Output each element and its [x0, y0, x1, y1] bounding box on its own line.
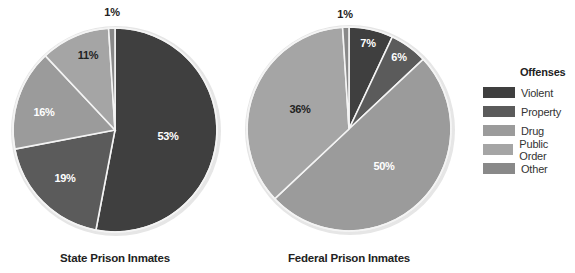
legend: Offenses Violent Property Drug Public Or… — [483, 66, 575, 178]
legend-swatch-property — [483, 106, 515, 117]
federal-violent-label: 7% — [360, 37, 375, 49]
legend-label-drug: Drug — [521, 125, 544, 137]
federal-public-order-label: 36% — [289, 103, 310, 115]
federal-drug-label: 50% — [373, 160, 394, 172]
legend-swatch-public-order — [483, 144, 513, 155]
legend-item-public-order: Public Order — [483, 140, 575, 159]
legend-swatch-drug — [483, 125, 515, 136]
state-violent-label: 53% — [157, 130, 178, 142]
state-public-order-label: 11% — [78, 49, 99, 61]
legend-item-violent: Violent — [483, 83, 575, 102]
legend-label-other: Other — [521, 163, 548, 175]
legend-swatch-violent — [483, 87, 515, 98]
federal-pie-title: Federal Prison Inmates — [288, 252, 410, 264]
legend-item-property: Property — [483, 102, 575, 121]
legend-label-property: Property — [521, 106, 561, 118]
chart-area: State Prison Inmates Federal Prison Inma… — [0, 0, 575, 273]
state-drug-label: 16% — [33, 106, 54, 118]
legend-title: Offenses — [520, 66, 575, 78]
federal-other-label: 1% — [337, 8, 352, 20]
legend-item-other: Other — [483, 159, 575, 178]
legend-label-violent: Violent — [521, 87, 553, 99]
state-pie-title: State Prison Inmates — [60, 252, 170, 264]
legend-label-public-order: Public Order — [519, 138, 575, 162]
state-other-label: 1% — [104, 6, 119, 18]
federal-property-label: 6% — [391, 51, 406, 63]
state-property-label: 19% — [54, 172, 75, 184]
legend-swatch-other — [483, 163, 515, 174]
